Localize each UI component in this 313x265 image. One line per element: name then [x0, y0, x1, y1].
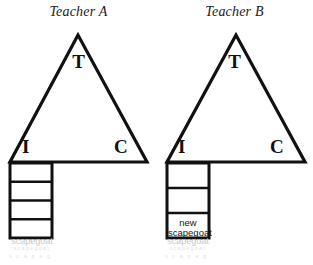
triangle-vertex-label-c-b: C	[270, 137, 284, 156]
faded-scapegoat-ghost-b-1: scapegoat	[165, 245, 211, 251]
diagram-teacher-a: Teacher A T I C scapegoat scapegoat scap…	[0, 0, 157, 265]
triangle-vertex-label-t-a: T	[0, 52, 157, 71]
triangle-vertex-label-i-b: I	[178, 137, 185, 156]
triangle-vertex-label-c-a: C	[114, 137, 128, 156]
diagram-canvas: Teacher A T I C scapegoat scapegoat scap…	[0, 0, 313, 265]
teacher-a-shapes	[0, 0, 157, 265]
triangle-vertex-label-i-a: I	[22, 137, 29, 156]
faded-scapegoat-ghost-b-2: scapegoat	[165, 253, 211, 259]
faded-scapegoat-ghost-a-1: scapegoat	[9, 245, 55, 251]
diagram-teacher-b: Teacher B T I C new scapegoat scapegoat …	[156, 0, 313, 265]
faded-scapegoat-ghost-a-2: scapegoat	[9, 253, 55, 259]
triangle-vertex-label-t-b: T	[156, 52, 313, 71]
